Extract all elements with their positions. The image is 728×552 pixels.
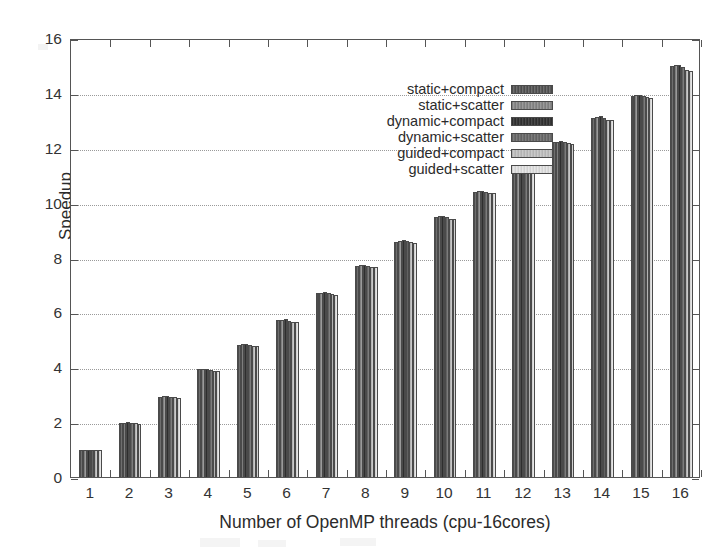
y-tick-label-0: 0: [22, 470, 62, 486]
bar-group-6: [276, 40, 299, 477]
x-tick-label-14: 14: [582, 485, 622, 501]
bar-guided+scatter-4: [216, 371, 220, 477]
legend-label: static+compact: [407, 82, 504, 97]
y-tick-label-4: 4: [22, 360, 62, 376]
x-tick-label-6: 6: [267, 485, 307, 501]
bar-guided+scatter-8: [374, 267, 378, 477]
x-tick-label-8: 8: [345, 485, 385, 501]
bar-guided+scatter-10: [453, 219, 457, 477]
bar-guided+scatter-3: [177, 398, 181, 477]
bar-guided+scatter-16: [689, 71, 693, 477]
legend-item-dynamic+scatter: dynamic+scatter: [357, 129, 553, 145]
bar-group-16: [670, 40, 693, 477]
x-tick-label-3: 3: [148, 485, 188, 501]
bar-group-1: [79, 40, 102, 477]
x-tick-label-7: 7: [306, 485, 346, 501]
y-tick-left-0: [71, 479, 78, 480]
legend-swatch: [511, 101, 553, 110]
bar-guided+scatter-11: [492, 193, 496, 477]
x-tick-label-4: 4: [188, 485, 228, 501]
y-tick-label-8: 8: [22, 251, 62, 267]
bar-group-2: [119, 40, 142, 477]
bar-guided+scatter-9: [413, 243, 417, 477]
bar-group-15: [631, 40, 654, 477]
legend-label: guided+compact: [397, 146, 504, 161]
y-tick-label-2: 2: [22, 415, 62, 431]
scan-artifact: [200, 538, 240, 547]
legend-swatch: [511, 133, 553, 142]
bar-guided+scatter-7: [334, 295, 338, 477]
legend-item-guided+compact: guided+compact: [357, 145, 553, 161]
scan-artifact: [340, 538, 376, 546]
bar-guided+scatter-14: [610, 120, 614, 477]
bar-group-7: [316, 40, 339, 477]
bar-guided+scatter-12: [531, 168, 535, 477]
legend-label: guided+scatter: [408, 162, 504, 177]
bar-guided+scatter-5: [256, 346, 260, 477]
x-axis-title: Number of OpenMP threads (cpu-16cores): [70, 512, 700, 533]
legend: static+compactstatic+scatterdynamic+comp…: [357, 81, 553, 178]
bar-group-3: [158, 40, 181, 477]
x-tick-label-2: 2: [109, 485, 149, 501]
bar-group-4: [197, 40, 220, 477]
x-tick-label-12: 12: [503, 485, 543, 501]
speedup-bar-chart-figure: Speedup 0246810121416 static+compactstat…: [0, 0, 728, 552]
x-tick-label-9: 9: [385, 485, 425, 501]
legend-item-static+scatter: static+scatter: [357, 97, 553, 113]
y-tick-right-0: [692, 479, 699, 480]
legend-item-guided+scatter: guided+scatter: [357, 161, 553, 177]
x-tick-label-5: 5: [227, 485, 267, 501]
legend-item-dynamic+compact: dynamic+compact: [357, 113, 553, 129]
x-tick-label-11: 11: [463, 485, 503, 501]
bar-guided+scatter-15: [649, 98, 653, 477]
legend-item-static+compact: static+compact: [357, 81, 553, 97]
bar-guided+scatter-13: [571, 144, 575, 477]
legend-label: dynamic+scatter: [398, 130, 504, 145]
legend-swatch: [511, 85, 553, 94]
legend-label: static+scatter: [418, 98, 504, 113]
legend-swatch: [511, 165, 553, 174]
x-tick-bottom-16: [701, 470, 702, 477]
x-tick-label-10: 10: [424, 485, 464, 501]
y-tick-label-12: 12: [22, 141, 62, 157]
bar-group-5: [237, 40, 260, 477]
bar-group-13: [552, 40, 575, 477]
plot-area: static+compactstatic+scatterdynamic+comp…: [70, 39, 700, 478]
x-tick-label-1: 1: [70, 485, 110, 501]
x-tick-top-16: [701, 40, 702, 47]
legend-swatch: [511, 117, 553, 126]
x-tick-label-15: 15: [621, 485, 661, 501]
y-tick-label-6: 6: [22, 305, 62, 321]
x-tick-label-13: 13: [542, 485, 582, 501]
y-tick-label-16: 16: [22, 31, 62, 47]
y-tick-label-10: 10: [22, 196, 62, 212]
bar-guided+scatter-6: [295, 322, 299, 477]
bar-guided+scatter-2: [138, 424, 142, 478]
bar-group-14: [591, 40, 614, 477]
y-tick-label-14: 14: [22, 86, 62, 102]
scan-artifact: [258, 540, 286, 547]
legend-label: dynamic+compact: [387, 114, 504, 129]
bar-guided+scatter-1: [98, 450, 102, 477]
x-tick-label-16: 16: [660, 485, 700, 501]
legend-swatch: [511, 149, 553, 158]
